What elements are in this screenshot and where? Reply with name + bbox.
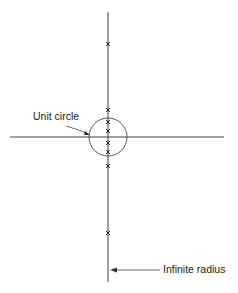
infinite-radius-label: Infinite radius: [163, 263, 225, 275]
diagram-canvas: [0, 0, 238, 293]
unit-circle-label: Unit circle: [33, 110, 79, 122]
infinite-radius-arrowhead-icon: [110, 268, 117, 273]
